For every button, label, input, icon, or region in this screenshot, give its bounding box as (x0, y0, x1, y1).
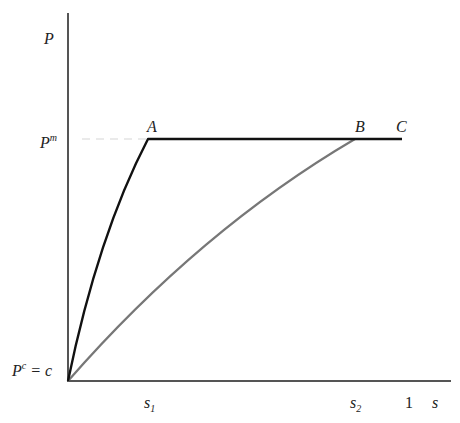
black-curve (68, 139, 402, 381)
point-b-label: B (355, 118, 365, 135)
gray-curve (68, 139, 355, 381)
y-axis-label: P (43, 30, 54, 47)
one-label: 1 (405, 394, 413, 411)
point-c-label: C (396, 118, 407, 135)
s2-label: s2 (350, 394, 361, 414)
s1-label: s1 (144, 394, 155, 414)
chart: P Pm Pc = c A B C s1 s2 1 s (0, 0, 460, 423)
pc-label: Pc = c (11, 360, 52, 379)
x-axis-label: s (432, 394, 438, 411)
point-a-label: A (146, 118, 157, 135)
pm-label: Pm (39, 132, 57, 151)
